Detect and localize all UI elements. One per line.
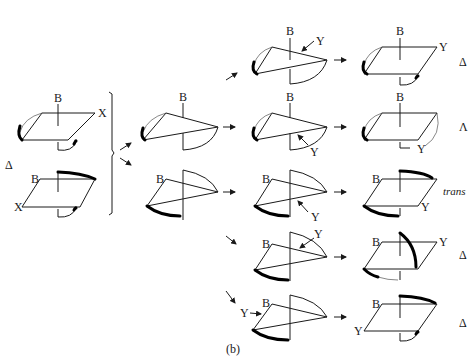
- stereo-label: Δ: [459, 55, 467, 69]
- start-complex-bottom: B X: [14, 171, 95, 217]
- label-y: Y: [417, 142, 426, 156]
- label-y: Y: [354, 324, 363, 338]
- row4-product: B Y: [364, 232, 448, 280]
- label-b: B: [262, 296, 270, 310]
- arrow-icon: [226, 291, 235, 303]
- row4-intermediate: B Y: [255, 227, 327, 281]
- bracket: [109, 92, 114, 215]
- arrow-icon: [120, 158, 131, 165]
- label-b: B: [286, 90, 294, 104]
- label-b: B: [372, 172, 380, 186]
- row5-product: B Y: [354, 295, 437, 341]
- row1-intermediate: B Y: [253, 24, 327, 84]
- stereo-label: Δ: [459, 248, 467, 262]
- row2-product: B Y: [363, 90, 438, 156]
- label-b: B: [54, 91, 62, 105]
- delta-label: Δ: [5, 158, 13, 172]
- row3-product: B Y: [364, 170, 437, 216]
- label-b: B: [262, 172, 270, 186]
- intermediate-2: B: [147, 170, 218, 220]
- row5-intermediate: B Y: [240, 295, 327, 340]
- label-y: Y: [240, 306, 249, 320]
- mechanism-diagram: B X Δ B X B B: [0, 0, 471, 358]
- row1-product: B Y: [363, 24, 448, 85]
- label-y: Y: [314, 227, 323, 241]
- stereo-label: Δ: [459, 316, 467, 330]
- label-x: X: [14, 200, 23, 214]
- label-b: B: [286, 24, 294, 38]
- stereo-label: Λ: [459, 120, 468, 134]
- intermediate-1: B: [142, 90, 218, 150]
- start-complex-top: B X: [19, 91, 107, 150]
- label-y: Y: [439, 235, 448, 249]
- label-b: B: [372, 297, 380, 311]
- label-b: B: [372, 235, 380, 249]
- label-y: Y: [439, 40, 448, 54]
- arrow-icon: [120, 143, 131, 150]
- label-b: B: [396, 90, 404, 104]
- arrow-icon: [226, 236, 236, 244]
- label-b: B: [31, 172, 39, 186]
- label-y: Y: [421, 200, 430, 214]
- label-b: B: [179, 90, 187, 104]
- label-y: Y: [316, 34, 325, 48]
- row2-intermediate: B Y: [253, 90, 327, 159]
- label-y: Y: [311, 210, 320, 224]
- label-b: B: [156, 172, 164, 186]
- label-b: B: [396, 24, 404, 38]
- label-y: Y: [310, 145, 319, 159]
- label-x: X: [98, 106, 107, 120]
- figure-caption: (b): [226, 342, 240, 356]
- label-b: B: [262, 237, 270, 251]
- arrow-icon: [226, 73, 237, 80]
- row3-intermediate: B Y: [255, 170, 327, 224]
- stereo-label: trans: [443, 185, 466, 197]
